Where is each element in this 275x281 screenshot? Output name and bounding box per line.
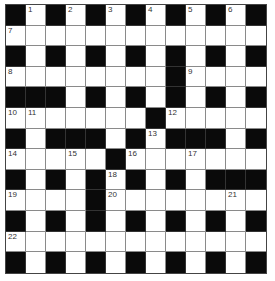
grid-cell[interactable] (226, 46, 246, 67)
grid-cell[interactable] (226, 87, 246, 108)
grid-cell[interactable] (46, 149, 66, 170)
grid-cell[interactable] (246, 67, 266, 88)
grid-cell[interactable] (186, 170, 206, 191)
grid-cell[interactable] (26, 170, 46, 191)
grid-cell[interactable] (226, 211, 246, 232)
grid-cell[interactable] (106, 211, 126, 232)
grid-cell[interactable] (126, 26, 146, 47)
grid-cell[interactable] (66, 232, 86, 253)
grid-cell[interactable] (146, 26, 166, 47)
grid-cell[interactable] (206, 190, 226, 211)
grid-cell[interactable] (226, 26, 246, 47)
grid-cell[interactable] (206, 67, 226, 88)
grid-cell[interactable]: 14 (6, 149, 26, 170)
grid-cell[interactable]: 1 (26, 5, 46, 26)
grid-cell[interactable] (246, 108, 266, 129)
grid-cell[interactable] (206, 26, 226, 47)
grid-cell[interactable] (46, 232, 66, 253)
grid-cell[interactable]: 6 (226, 5, 246, 26)
grid-cell[interactable] (106, 129, 126, 150)
grid-cell[interactable] (106, 46, 126, 67)
grid-cell[interactable] (146, 149, 166, 170)
grid-cell[interactable] (26, 252, 46, 273)
grid-cell[interactable] (226, 232, 246, 253)
grid-cell[interactable]: 20 (106, 190, 126, 211)
grid-cell[interactable]: 4 (146, 5, 166, 26)
grid-cell[interactable]: 21 (226, 190, 246, 211)
grid-cell[interactable] (66, 252, 86, 273)
grid-cell[interactable] (66, 108, 86, 129)
grid-cell[interactable] (66, 26, 86, 47)
grid-cell[interactable] (46, 26, 66, 47)
grid-cell[interactable] (146, 211, 166, 232)
grid-cell[interactable] (226, 108, 246, 129)
grid-cell[interactable] (106, 232, 126, 253)
grid-cell[interactable] (26, 67, 46, 88)
grid-cell[interactable]: 13 (146, 129, 166, 150)
grid-cell[interactable]: 17 (186, 149, 206, 170)
grid-cell[interactable] (66, 67, 86, 88)
grid-cell[interactable]: 19 (6, 190, 26, 211)
grid-cell[interactable] (26, 232, 46, 253)
grid-cell[interactable] (66, 190, 86, 211)
grid-cell[interactable] (186, 108, 206, 129)
grid-cell[interactable] (186, 252, 206, 273)
grid-cell[interactable] (126, 67, 146, 88)
grid-cell[interactable] (106, 26, 126, 47)
grid-cell[interactable] (146, 190, 166, 211)
grid-cell[interactable] (126, 108, 146, 129)
grid-cell[interactable] (246, 232, 266, 253)
grid-cell[interactable] (126, 190, 146, 211)
grid-cell[interactable] (126, 232, 146, 253)
grid-cell[interactable] (146, 46, 166, 67)
grid-cell[interactable] (206, 232, 226, 253)
grid-cell[interactable] (46, 190, 66, 211)
grid-cell[interactable] (146, 170, 166, 191)
grid-cell[interactable] (166, 149, 186, 170)
grid-cell[interactable] (46, 67, 66, 88)
grid-cell[interactable] (106, 252, 126, 273)
grid-cell[interactable]: 16 (126, 149, 146, 170)
grid-cell[interactable] (246, 26, 266, 47)
grid-cell[interactable] (226, 67, 246, 88)
grid-cell[interactable] (106, 87, 126, 108)
grid-cell[interactable] (66, 170, 86, 191)
grid-cell[interactable]: 15 (66, 149, 86, 170)
grid-cell[interactable]: 2 (66, 5, 86, 26)
grid-cell[interactable] (226, 252, 246, 273)
grid-cell[interactable]: 18 (106, 170, 126, 191)
grid-cell[interactable] (166, 190, 186, 211)
grid-cell[interactable]: 22 (6, 232, 26, 253)
grid-cell[interactable] (146, 232, 166, 253)
grid-cell[interactable] (186, 46, 206, 67)
grid-cell[interactable] (86, 26, 106, 47)
grid-cell[interactable]: 9 (186, 67, 206, 88)
grid-cell[interactable] (246, 190, 266, 211)
grid-cell[interactable] (186, 87, 206, 108)
grid-cell[interactable] (166, 26, 186, 47)
grid-cell[interactable] (86, 232, 106, 253)
grid-cell[interactable] (66, 211, 86, 232)
grid-cell[interactable] (246, 149, 266, 170)
grid-cell[interactable] (26, 46, 46, 67)
grid-cell[interactable] (206, 108, 226, 129)
grid-cell[interactable] (226, 149, 246, 170)
grid-cell[interactable] (86, 67, 106, 88)
grid-cell[interactable]: 5 (186, 5, 206, 26)
grid-cell[interactable] (106, 108, 126, 129)
grid-cell[interactable] (66, 46, 86, 67)
grid-cell[interactable] (186, 190, 206, 211)
grid-cell[interactable] (146, 87, 166, 108)
grid-cell[interactable]: 11 (26, 108, 46, 129)
grid-cell[interactable] (166, 232, 186, 253)
grid-cell[interactable] (146, 67, 166, 88)
grid-cell[interactable] (186, 211, 206, 232)
grid-cell[interactable] (146, 252, 166, 273)
grid-cell[interactable] (86, 149, 106, 170)
grid-cell[interactable]: 10 (6, 108, 26, 129)
grid-cell[interactable] (106, 67, 126, 88)
grid-cell[interactable] (86, 108, 106, 129)
grid-cell[interactable] (186, 232, 206, 253)
grid-cell[interactable] (26, 149, 46, 170)
grid-cell[interactable] (46, 108, 66, 129)
